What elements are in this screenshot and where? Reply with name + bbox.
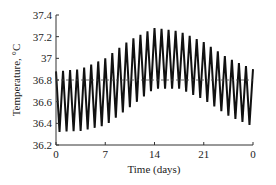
x-tick-label: 7 (103, 148, 109, 160)
temperature-chart: 36.236.436.636.83737.237.4 0714210 Time … (0, 0, 276, 185)
x-tick-label: 0 (53, 148, 59, 160)
y-tick-label: 36.8 (33, 74, 53, 86)
y-axis-title: Temperature, °C (10, 44, 22, 117)
y-tick-label: 37.2 (33, 31, 52, 43)
y-tick-label: 36.2 (33, 139, 52, 151)
y-tick-label: 36.6 (33, 96, 53, 108)
x-tick-label: 0 (250, 148, 256, 160)
plot-area (56, 28, 253, 132)
x-axis-title: Time (days) (127, 163, 180, 176)
y-tick-label: 37 (41, 52, 53, 64)
y-axis-ticks: 36.236.436.636.83737.237.4 (33, 9, 59, 151)
x-tick-label: 14 (149, 148, 161, 160)
y-tick-label: 36.4 (33, 117, 53, 129)
x-tick-label: 21 (198, 148, 209, 160)
y-tick-label: 37.4 (33, 9, 53, 21)
